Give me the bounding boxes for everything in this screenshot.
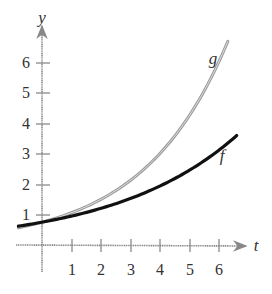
y-tick-label: 4 [22,115,30,132]
curve-f-label: f [220,146,227,165]
curve-g-label: g [209,49,218,68]
y-tick-label: 5 [22,84,30,101]
y-tick-label: 6 [22,54,30,71]
y-tick-label: 3 [22,145,30,162]
x-tick-label: 2 [97,261,105,278]
y-axis-label: y [36,8,46,27]
x-tick-label: 1 [68,261,76,278]
x-axis-label: t [254,236,260,255]
y-tick-label: 2 [22,176,30,193]
x-tick-label: 4 [156,261,164,278]
chart: 1 2 3 4 5 6 1 2 3 4 5 6 y t g f [0,0,272,294]
x-tick-label: 5 [186,261,194,278]
x-tick-label: 3 [127,261,135,278]
x-tick-label: 6 [215,261,223,278]
y-tick-label: 1 [22,206,30,223]
y-ticks [36,63,50,215]
